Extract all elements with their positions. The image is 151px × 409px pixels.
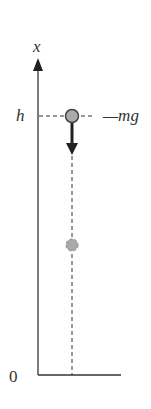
ball-falling xyxy=(66,239,78,251)
gravity-force-arrowhead-icon xyxy=(66,143,78,155)
free-fall-diagram: x h —mg 0 xyxy=(0,0,151,409)
ball-at-height-h xyxy=(66,110,79,123)
force-label-mg: —mg xyxy=(102,106,139,125)
origin-label-0: 0 xyxy=(9,367,18,386)
height-label-h: h xyxy=(16,106,25,125)
axis-label-x: x xyxy=(32,37,41,56)
x-axis-arrowhead-icon xyxy=(33,58,43,71)
